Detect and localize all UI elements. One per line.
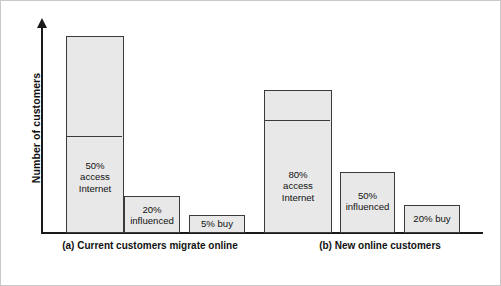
group-caption-b: (b) New online customers bbox=[280, 240, 480, 251]
bar-b1 bbox=[264, 90, 332, 233]
bar-a2 bbox=[124, 196, 180, 233]
bar-a1-segment-divider bbox=[67, 136, 122, 137]
plot-area: Number of customers 50% access Internet … bbox=[0, 0, 501, 286]
bar-a3 bbox=[189, 215, 245, 233]
y-axis-title: Number of customers bbox=[30, 48, 42, 208]
bar-a1 bbox=[66, 36, 124, 233]
bar-b3 bbox=[404, 205, 460, 233]
chart-figure: Number of customers 50% access Internet … bbox=[0, 0, 501, 286]
group-caption-a: (a) Current customers migrate online bbox=[40, 240, 260, 251]
bar-b2 bbox=[340, 172, 395, 233]
bar-b1-segment-divider bbox=[265, 120, 330, 121]
